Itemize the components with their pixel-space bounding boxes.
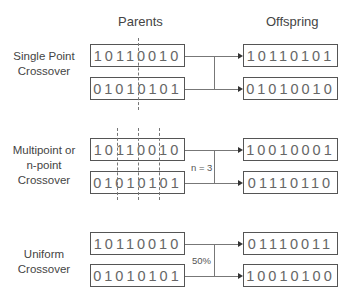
offspring-1-box: 10110101 (243, 44, 338, 67)
connector (214, 56, 215, 90)
offspring-2-box: 01010010 (243, 77, 338, 100)
connector (185, 150, 240, 151)
probability-note: 50% (192, 255, 211, 266)
offspring-1-box: 01110011 (243, 232, 338, 255)
offspring-2-box: 10010100 (243, 264, 338, 287)
connector (214, 150, 215, 184)
connector (185, 244, 240, 245)
connector (214, 244, 215, 277)
offspring-2-box: 01110110 (243, 171, 338, 194)
parent-2-box: 01010101 (90, 264, 185, 287)
crossover-cut-line (159, 128, 160, 200)
crossover-cut-line (117, 128, 118, 200)
section-label: Multipoint or n-point Crossover (0, 143, 88, 188)
n-points-note: n = 3 (191, 162, 212, 173)
offspring-1-box: 10010001 (243, 138, 338, 161)
parent-1-box: 10110010 (90, 232, 185, 255)
connector (185, 183, 240, 184)
crossover-cut-line (138, 38, 139, 110)
connector (185, 89, 240, 90)
section-label: Uniform Crossover (0, 247, 88, 277)
offspring-header: Offspring (266, 14, 319, 29)
connector (185, 276, 240, 277)
parents-header: Parents (118, 14, 163, 29)
connector (185, 56, 240, 57)
crossover-cut-line (138, 128, 139, 200)
section-label: Single Point Crossover (0, 49, 88, 79)
